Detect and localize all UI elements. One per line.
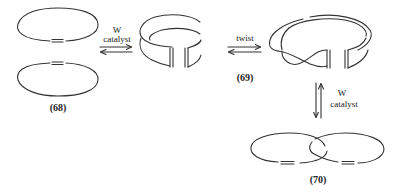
arrow-1-condition: catalyst bbox=[103, 34, 131, 44]
equilibrium-arrow-1: W catalyst bbox=[100, 25, 132, 52]
compound-label-69: (69) bbox=[237, 72, 254, 84]
arrow-2-label: twist bbox=[236, 33, 254, 43]
compound-69-band bbox=[140, 15, 201, 67]
ring-left bbox=[251, 133, 327, 164]
arrow-3-condition: catalyst bbox=[330, 99, 358, 109]
ring-bottom bbox=[18, 62, 98, 96]
arrow-3-reagent: W bbox=[338, 88, 347, 98]
reaction-diagram: (68) W catalyst twist (69) bbox=[0, 0, 401, 194]
compound-label-68: (68) bbox=[50, 102, 67, 114]
compound-label-70: (70) bbox=[310, 174, 327, 186]
equilibrium-arrow-3: W catalyst bbox=[316, 83, 358, 118]
ring-right bbox=[310, 133, 384, 164]
compound-70: (70) bbox=[251, 133, 384, 186]
compound-68: (68) bbox=[18, 8, 98, 114]
compound-69-twisted bbox=[269, 15, 371, 68]
ring-top bbox=[18, 8, 98, 42]
equilibrium-arrow-2: twist (69) bbox=[228, 33, 261, 84]
